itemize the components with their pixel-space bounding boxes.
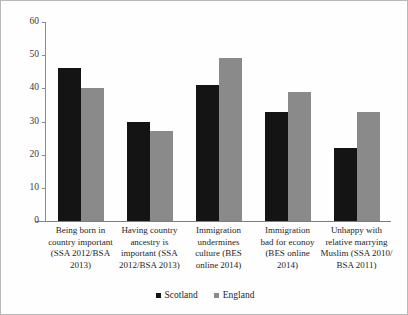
bar-scotland [334,148,357,221]
y-tick-label-10: 10 [9,183,39,193]
bar-england [219,58,242,221]
legend-swatch-scotland [156,293,161,298]
chart-legend: Scotland England [1,290,408,300]
category-label-line: culture (BES [182,248,255,260]
legend-swatch-england [214,293,219,298]
bar-group [196,22,242,221]
category-label-line: Muslim (SSA 2010/ [320,248,393,260]
bar-scotland [196,85,219,221]
category-label-line: 2013) [44,260,117,272]
legend-label-england: England [223,290,255,300]
category-label-line: Being born in [44,225,117,237]
category-label-line: bad for econoy [251,237,324,249]
legend-item-england: England [214,290,255,300]
category-label-line: (SSA 2012/BSA [44,248,117,260]
category-label: Immigrationunderminesculture (BESonline … [182,225,255,271]
bar-scotland [265,112,288,221]
category-label-line: important (SSA [113,248,186,260]
category-label: Unhappy withrelative marryingMuslim (SSA… [320,225,393,271]
y-tick-label-50: 50 [9,50,39,60]
category-label-line: BSA 2011) [320,260,393,272]
y-tick-mark-0 [42,221,46,222]
bar-group [265,22,311,221]
category-label-line: (BES online [251,248,324,260]
category-label-line: ancestry is [113,237,186,249]
bar-england [81,88,104,221]
bar-england [357,112,380,221]
legend-label-scotland: Scotland [165,290,198,300]
category-label-line: 2012/BSA 2013) [113,260,186,272]
bar-england [150,131,173,221]
chart-figure: 6050403020100 Being born incountry impor… [0,0,408,315]
bar-scotland [58,68,81,221]
bar-group [334,22,380,221]
y-tick-label-40: 40 [9,83,39,93]
category-label-line: Unhappy with [320,225,393,237]
bar-scotland [127,122,150,222]
category-label-line: country important [44,237,117,249]
y-tick-label-0: 0 [9,216,39,226]
y-tick-label-30: 30 [9,117,39,127]
y-tick-label-20: 20 [9,150,39,160]
category-label-line: Having country [113,225,186,237]
category-label-line: relative marrying [320,237,393,249]
category-label-line: Immigration [251,225,324,237]
category-label-line: online 2014) [182,260,255,272]
category-label-line: Immigration [182,225,255,237]
category-label-line: 2014) [251,260,324,272]
bars-area [46,22,391,221]
category-labels: Being born incountry important(SSA 2012/… [46,225,391,285]
category-label: Having countryancestry isimportant (SSA2… [113,225,186,271]
category-label-line: undermines [182,237,255,249]
category-label: Being born incountry important(SSA 2012/… [44,225,117,271]
legend-item-scotland: Scotland [156,290,198,300]
bar-group [127,22,173,221]
bar-group [58,22,104,221]
y-tick-label-60: 60 [9,17,39,27]
bar-england [288,92,311,221]
category-label: Immigrationbad for econoy(BES online2014… [251,225,324,271]
x-axis-baseline [35,221,391,222]
